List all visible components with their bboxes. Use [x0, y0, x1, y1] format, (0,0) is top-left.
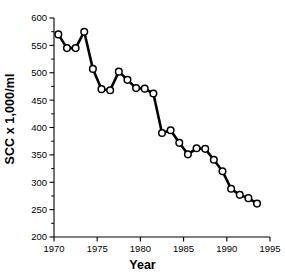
- data-point-marker: [219, 168, 226, 175]
- x-tick-label: 1970: [43, 243, 64, 254]
- data-point-marker: [124, 77, 131, 84]
- x-axis-title: Year: [0, 258, 285, 272]
- data-point-marker: [167, 127, 174, 134]
- y-tick-label: 250: [31, 204, 47, 215]
- data-point-marker: [81, 28, 88, 35]
- data-point-marker: [133, 85, 140, 92]
- y-tick-label: 500: [31, 67, 47, 78]
- y-tick-label: 450: [31, 95, 47, 106]
- data-point-marker: [107, 87, 114, 94]
- y-tick-label: 550: [31, 40, 47, 51]
- data-point-marker: [245, 195, 252, 202]
- x-tick-label: 1990: [216, 243, 237, 254]
- data-point-marker: [236, 192, 243, 199]
- x-tick-label: 1980: [130, 243, 151, 254]
- data-point-marker: [64, 45, 71, 52]
- y-axis-title-text: SCC x 1,000/ml: [3, 73, 17, 164]
- scc-year-line-chart: 2002503003504004505005506001970197519801…: [0, 0, 285, 277]
- data-point-marker: [150, 90, 157, 97]
- plot-area: 2002503003504004505005506001970197519801…: [0, 0, 285, 277]
- y-tick-label: 600: [31, 12, 47, 23]
- y-tick-label: 350: [31, 149, 47, 160]
- data-point-marker: [159, 130, 166, 137]
- data-point-marker: [228, 186, 235, 193]
- data-point-marker: [185, 151, 192, 158]
- x-tick-label: 1985: [173, 243, 194, 254]
- data-point-marker: [55, 31, 62, 38]
- data-point-marker: [72, 45, 79, 52]
- y-tick-label: 300: [31, 177, 47, 188]
- data-point-marker: [202, 146, 209, 153]
- data-line: [58, 32, 257, 204]
- data-point-marker: [141, 85, 148, 92]
- data-point-marker: [254, 200, 261, 207]
- x-tick-label: 1975: [87, 243, 108, 254]
- y-axis-title: SCC x 1,000/ml: [0, 0, 22, 237]
- x-tick-label: 1995: [259, 243, 280, 254]
- data-point-marker: [90, 66, 97, 73]
- data-point-marker: [193, 145, 200, 152]
- y-tick-label: 200: [31, 231, 47, 242]
- data-point-marker: [116, 68, 123, 75]
- data-point-marker: [176, 140, 183, 147]
- data-point-marker: [211, 157, 218, 164]
- y-tick-label: 400: [31, 122, 47, 133]
- data-point-marker: [98, 86, 105, 93]
